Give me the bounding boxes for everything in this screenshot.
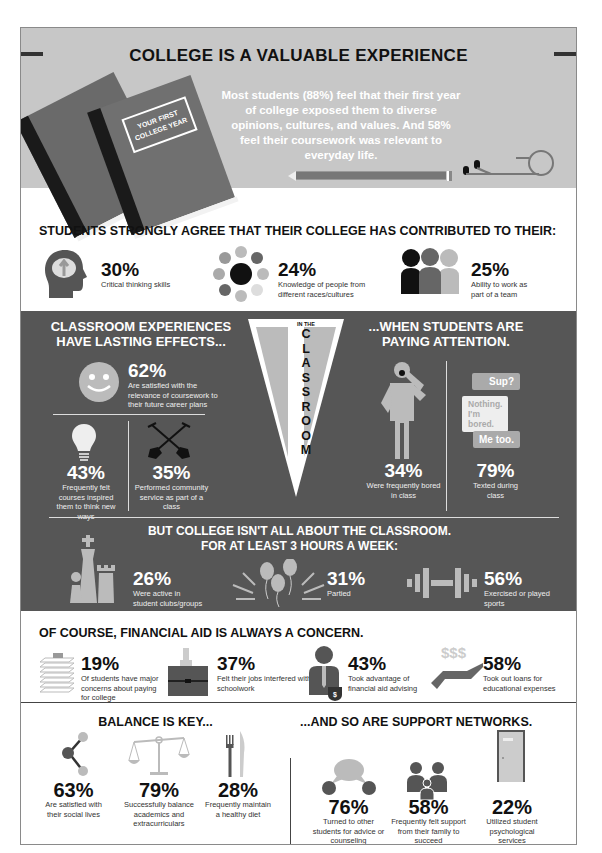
stat-family-support: 58% Frequently felt support from their f…: [391, 797, 466, 845]
section-divider: [21, 702, 576, 703]
stat-coursework-relevance: 62% Are satisfied with the relevance of …: [128, 361, 223, 410]
advisor-shield-icon: $: [307, 645, 343, 701]
classroom-left-title: CLASSROOM EXPERIENCES HAVE LASTING EFFEC…: [41, 319, 241, 349]
chess-pieces-icon: [67, 533, 119, 605]
conversation-icon: [321, 758, 377, 796]
divider: [446, 361, 447, 511]
stat-aid-advising: 43% Took advantage of financial aid advi…: [348, 654, 428, 693]
message-bubble: Me too.: [473, 431, 520, 448]
stat-inspired: 43% Frequently felt courses inspired the…: [51, 463, 121, 521]
svg-text:$: $: [333, 691, 337, 699]
stat-jobs-interfered: 37% Felt their jobs interfered with scho…: [217, 654, 312, 693]
book-label: YOUR FIRSTCOLLEGE YEAR: [121, 96, 197, 153]
stat-community-service: 35% Performed community service as part …: [134, 463, 209, 512]
message-bubble: Nothing. I'm bored.: [462, 396, 508, 432]
support-title: ...AND SO ARE SUPPORT NETWORKS.: [300, 715, 532, 729]
divider: [49, 517, 559, 518]
lightbulb-icon: [71, 423, 97, 463]
stat-exercised: 56% Exercised or played sports: [484, 569, 554, 608]
hand-money-icon: [429, 661, 485, 691]
stat-teamwork: 25% Ability to work as part of a team: [471, 260, 541, 299]
yawning-person-icon: [376, 361, 431, 461]
financial-title: OF COURSE, FINANCIAL AID IS ALWAYS A CON…: [39, 626, 364, 640]
stat-partied: 31% Partied: [327, 569, 365, 599]
stat-balance-academics: 79% Successfully balance academics and e…: [119, 780, 199, 829]
balloons-icon: [231, 559, 326, 609]
stat-texted: 79% Texted during class: [468, 461, 523, 500]
stat-social-lives: 63% Are satisfied with their social live…: [41, 780, 106, 819]
pennant-text: IN THE CLASSROOM: [293, 321, 319, 458]
scale-icon: [128, 732, 190, 776]
pencil-icon: [296, 171, 446, 180]
stat-bored: 34% Were frequently bored in class: [366, 461, 441, 500]
door-icon: [497, 730, 525, 782]
stat-clubs: 26% Were active in student clubs/groups: [133, 569, 203, 608]
stat-loans: 58% Took out loans for educational expen…: [483, 654, 573, 693]
hero-text: Most students (88%) feel that their firs…: [221, 88, 461, 163]
money-symbol: $$$: [441, 644, 466, 661]
classroom-right-title: ...WHEN STUDENTS ARE PAYING ATTENTION.: [366, 319, 526, 349]
team-people-icon: [399, 248, 461, 294]
brain-head-icon: [43, 248, 87, 298]
stat-peer-advice: 76% Turned to other students for advice …: [311, 797, 386, 845]
earbuds-icon: [461, 138, 556, 183]
stat-psych-services: 22% Utilized student psychological servi…: [483, 797, 541, 845]
divider: [128, 421, 129, 511]
stat-knowledge-races: 24% Knowledge of people from different r…: [278, 260, 388, 299]
stat-healthy-diet: 28% Frequently maintain a healthy diet: [203, 780, 273, 819]
smiley-face-icon: [78, 361, 120, 403]
divider: [290, 758, 291, 845]
page-title: COLLEGE IS A VALUABLE EXPERIENCE: [21, 46, 576, 66]
social-network-icon: [61, 731, 91, 777]
fork-knife-icon: [224, 731, 248, 777]
stat-critical-thinking: 30% Critical thinking skills: [101, 260, 170, 290]
infographic-frame: COLLEGE IS A VALUABLE EXPERIENCE Most st…: [20, 27, 577, 845]
paper-stack-icon: [39, 648, 75, 696]
dumbbell-icon: [407, 568, 477, 598]
stat-paying-concern: 19% Of students have major concerns abou…: [81, 654, 161, 703]
classroom-section: CLASSROOM EXPERIENCES HAVE LASTING EFFEC…: [21, 311, 576, 611]
circles-diversity-icon: [213, 246, 269, 302]
crossed-shovels-icon: [144, 421, 194, 461]
contributed-title: STUDENTS STRONGLY AGREE THAT THEIR COLLE…: [39, 224, 556, 238]
divider: [53, 414, 205, 415]
balance-title: BALANCE IS KEY...: [21, 715, 290, 729]
briefcase-icon: [167, 648, 209, 696]
hero-banner: COLLEGE IS A VALUABLE EXPERIENCE Most st…: [21, 28, 576, 188]
message-bubble: Sup?: [472, 373, 520, 390]
family-icon: [407, 762, 447, 800]
